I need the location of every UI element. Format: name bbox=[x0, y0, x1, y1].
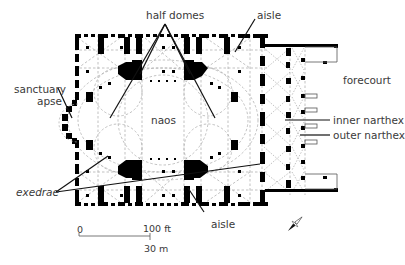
label-sanctuary: sanctuary bbox=[14, 84, 66, 95]
scale-meters-label: 30 m bbox=[144, 244, 168, 254]
compass-icon bbox=[285, 214, 305, 234]
label-aisle-bottom: aisle bbox=[211, 219, 235, 230]
scale-bar bbox=[79, 233, 150, 240]
label-outer-narthex: outer narthex bbox=[333, 130, 405, 141]
label-inner-narthex: inner narthex bbox=[333, 115, 404, 126]
label-aisle-top: aisle bbox=[257, 10, 281, 21]
sanctuary-apse-walls bbox=[62, 100, 77, 144]
label-exedrae: exedrae bbox=[16, 187, 59, 198]
label-apse: apse bbox=[37, 96, 62, 107]
label-half-domes: half domes bbox=[146, 10, 204, 21]
label-forecourt: forecourt bbox=[343, 75, 391, 86]
label-naos: naos bbox=[151, 115, 176, 126]
scale-zero-label: 0 bbox=[77, 225, 83, 235]
scale-feet-label: 100 ft bbox=[143, 224, 171, 234]
